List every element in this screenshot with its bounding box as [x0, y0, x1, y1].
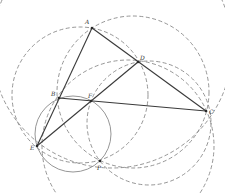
circles-group — [0, 0, 225, 193]
label-f: F — [87, 92, 93, 99]
circle-ADPE — [12, 27, 148, 163]
circle-EPC — [0, 0, 225, 168]
label-e: E — [29, 144, 35, 151]
label-c: C — [209, 108, 214, 115]
segments-group — [37, 28, 206, 146]
point-b — [58, 97, 61, 100]
point-f — [90, 100, 93, 103]
circle-DCP — [87, 61, 211, 185]
point-c — [205, 110, 208, 113]
segment-ae — [37, 28, 92, 146]
label-a: A — [84, 18, 90, 25]
segment-ac — [92, 28, 206, 111]
label-b: B — [50, 90, 56, 97]
point-e — [36, 145, 39, 148]
label-p: P — [96, 164, 102, 171]
geometry-diagram: ABCDEFP — [0, 0, 225, 193]
point-a — [91, 27, 94, 30]
point-d — [137, 61, 140, 64]
circle-ACP — [57, 16, 209, 168]
point-p — [99, 160, 102, 163]
label-d: D — [139, 54, 145, 61]
